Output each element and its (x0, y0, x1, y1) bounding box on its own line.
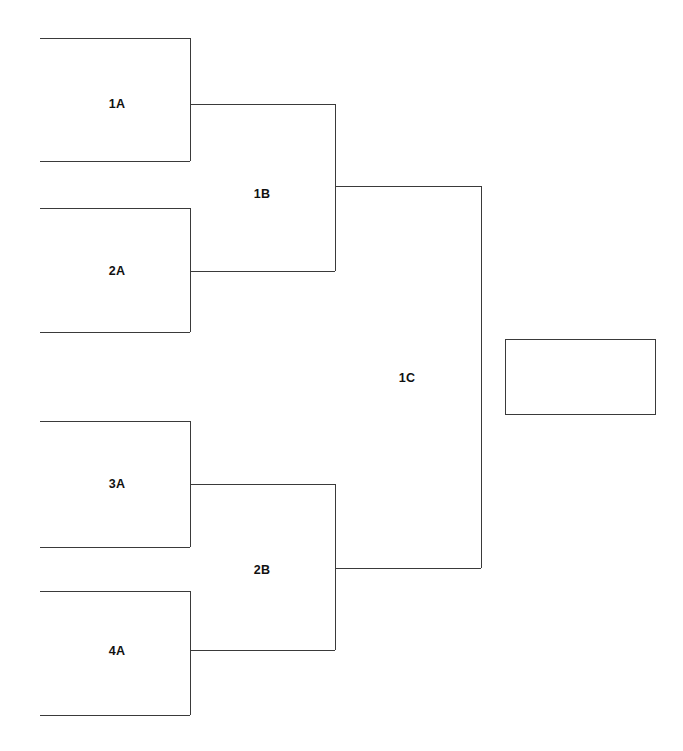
slot-2b-label: 2B (254, 563, 270, 577)
slot-4a-top-line (40, 591, 190, 592)
slot-1c-bottom-line (335, 568, 481, 569)
slot-1c-right-line (481, 186, 482, 568)
slot-1a-top-line (40, 38, 190, 39)
slot-1c-top-line (335, 186, 481, 187)
slot-1a-right-line (190, 38, 191, 161)
slot-2a-label: 2A (109, 264, 125, 278)
slot-2a-right-line (190, 208, 191, 332)
slot-2b-right-line (335, 484, 336, 650)
slot-2b-top-line (190, 484, 335, 485)
slot-4a-bottom-line (40, 715, 190, 716)
slot-4a-right-line (190, 591, 191, 715)
champion-box[interactable] (505, 339, 656, 415)
slot-1b-bottom-line (190, 271, 335, 272)
slot-3a-bottom-line (40, 547, 190, 548)
bracket-diagram: 1A 2A 3A 4A 1B 2B 1C (0, 0, 683, 751)
slot-1a-bottom-line (40, 161, 190, 162)
slot-4a-label: 4A (109, 644, 125, 658)
slot-2a-top-line (40, 208, 190, 209)
slot-1a-label: 1A (109, 97, 125, 111)
slot-2a-bottom-line (40, 332, 190, 333)
slot-1b-label: 1B (254, 187, 270, 201)
slot-2b-bottom-line (190, 650, 335, 651)
slot-1c-label: 1C (399, 371, 415, 385)
slot-1b-top-line (190, 104, 335, 105)
slot-1b-right-line (335, 104, 336, 271)
slot-3a-top-line (40, 421, 190, 422)
slot-3a-label: 3A (109, 477, 125, 491)
